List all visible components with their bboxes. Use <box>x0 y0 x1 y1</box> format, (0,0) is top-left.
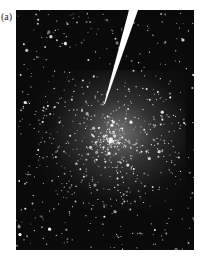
occulting-wedge <box>16 10 194 250</box>
star-cluster-photo <box>16 10 194 250</box>
panel-label: (a) <box>1 11 12 22</box>
